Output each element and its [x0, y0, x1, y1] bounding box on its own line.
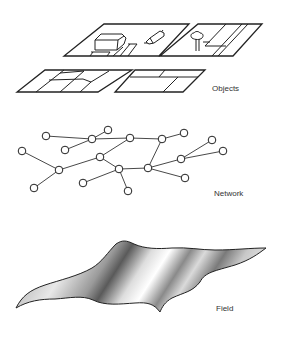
field-surface: [16, 241, 266, 312]
network-node: [42, 132, 50, 140]
network-node: [18, 147, 26, 155]
network-node: [96, 153, 104, 161]
building-icon: [95, 34, 126, 50]
objects-panel: [17, 24, 262, 92]
network-node: [61, 146, 69, 154]
tree-icon: [191, 32, 203, 52]
network-nodes: [18, 126, 227, 195]
network-node: [115, 165, 123, 173]
objects-label: Objects: [212, 84, 239, 93]
field-panel: [16, 241, 266, 312]
network-node: [79, 179, 87, 187]
parcel-plate-tree: [160, 24, 262, 56]
spatial-data-models-diagram: [0, 0, 282, 342]
network-node: [181, 174, 189, 182]
network-node: [30, 184, 38, 192]
network-node: [180, 129, 188, 137]
network-node: [158, 135, 166, 143]
parcel-plate-buildings: [64, 24, 189, 56]
network-node: [208, 136, 216, 144]
network-node: [219, 147, 227, 155]
network-node: [104, 126, 112, 134]
network-node: [88, 135, 96, 143]
network-panel: [18, 126, 227, 195]
house-icon: [146, 31, 164, 44]
network-node: [177, 155, 185, 163]
parcel-plate-lots-left: [17, 70, 132, 92]
field-label: Field: [216, 304, 233, 313]
network-node: [144, 164, 152, 172]
parcel-plate-lots-right: [115, 70, 205, 92]
network-label: Network: [214, 189, 243, 198]
network-node: [55, 166, 63, 174]
network-node: [126, 134, 134, 142]
network-edges: [22, 130, 223, 191]
network-node: [124, 187, 132, 195]
